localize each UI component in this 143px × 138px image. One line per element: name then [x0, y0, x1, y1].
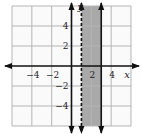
- boundary-arrow-down: [98, 126, 104, 134]
- y-tick-label: −2: [55, 81, 68, 91]
- y-axis-arrow-down: [69, 126, 75, 134]
- y-tick-label: 2: [63, 41, 69, 51]
- x-axis-title: x: [124, 69, 130, 80]
- inequality-graph: −4−22442−2−4xy: [0, 0, 143, 138]
- boundary-arrow-down: [78, 126, 84, 134]
- x-axis-arrow-left: [4, 63, 12, 69]
- x-tick-label: −4: [26, 70, 40, 80]
- x-tick-label: −2: [46, 70, 59, 80]
- x-axis-arrow-right: [132, 63, 140, 69]
- x-tick-label: 4: [109, 70, 115, 80]
- y-axis-title: y: [77, 1, 84, 12]
- y-tick-label: 4: [63, 21, 69, 31]
- y-tick-label: −4: [55, 101, 69, 111]
- x-tick-label: 2: [89, 70, 95, 80]
